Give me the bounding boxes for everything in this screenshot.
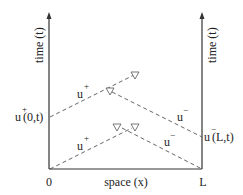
backward-wave-arrow-icon (106, 88, 114, 95)
svg-text:u: u (77, 139, 83, 153)
svg-text:(0,t): (0,t) (23, 110, 43, 124)
svg-text:(L,t): (L,t) (212, 130, 234, 144)
svg-text:u: u (204, 130, 210, 144)
lower-forward-characteristic (50, 128, 132, 169)
right-axis-arrow-icon (200, 12, 205, 19)
wave-label-upper-left: u + (77, 81, 89, 101)
upper-backward-characteristic (112, 92, 202, 137)
left-boundary-label: u + (0,t) (15, 104, 43, 124)
wave-label-lower-left: u + (77, 133, 89, 153)
svg-text:+: + (84, 133, 89, 143)
right-time-axis-label: time (t) (205, 27, 219, 63)
svg-text:−: − (170, 130, 175, 140)
forward-wave-arrow-icon (131, 124, 139, 131)
x-axis-origin-label: 0 (46, 175, 52, 189)
x-axis-label: space (x) (104, 175, 148, 189)
left-time-axis-label: time (t) (32, 27, 46, 63)
lower-backward-characteristic (122, 128, 202, 169)
svg-text:+: + (84, 81, 89, 91)
right-boundary-label: u − (L,t) (204, 124, 234, 144)
x-axis-end-label: L (199, 175, 206, 189)
svg-text:u: u (77, 87, 83, 101)
upper-forward-characteristic (50, 75, 134, 117)
svg-text:u: u (15, 110, 21, 124)
wave-label-upper-right: u − (177, 105, 188, 124)
left-axis-arrow-icon (47, 12, 52, 19)
backward-wave-arrow-icon (113, 124, 121, 131)
wave-label-lower-right: u − (164, 130, 175, 149)
svg-text:−: − (183, 105, 188, 115)
characteristics-diagram: time (t) time (t) 0 L space (x) u + (0,t… (0, 0, 243, 195)
